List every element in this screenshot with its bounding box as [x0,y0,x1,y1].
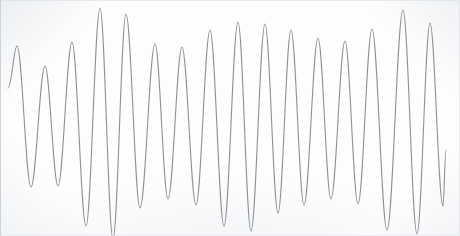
oscillogram-trace-path [8,8,446,236]
waveform-trace-svg [0,0,460,236]
waveform-chart [0,0,460,236]
